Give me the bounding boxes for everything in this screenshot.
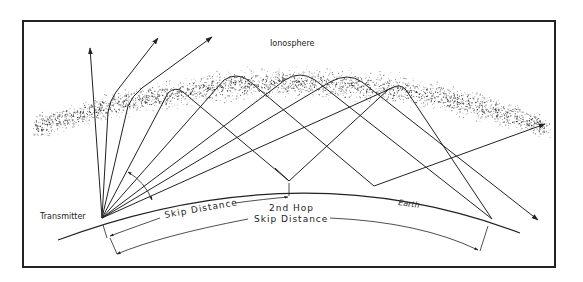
diagram-frame xyxy=(23,21,555,267)
skip-distance-label: Skip Distance xyxy=(164,197,239,220)
vertical-escape-ray xyxy=(90,48,102,218)
reflected-ray-3 xyxy=(102,75,492,219)
reflected-rays xyxy=(102,75,545,220)
second-hop-ray-c xyxy=(275,168,289,181)
second-hop-ray-b xyxy=(374,124,545,186)
transmitter-label: Transmitter xyxy=(39,212,86,221)
escaping-rays xyxy=(90,37,212,218)
skip-propagation-diagram: Ionosphere Transmitter Earth Skip Distan… xyxy=(0,0,583,282)
second-hop-label-line1: 2nd Hop xyxy=(269,203,314,213)
earth-label: Earth xyxy=(398,198,420,210)
mid-escape-ray xyxy=(102,37,212,218)
second-hop-label-line2: Skip Distance xyxy=(254,214,328,224)
second-hop-ray-a xyxy=(289,88,390,181)
ionosphere-label: Ionosphere xyxy=(270,39,315,48)
